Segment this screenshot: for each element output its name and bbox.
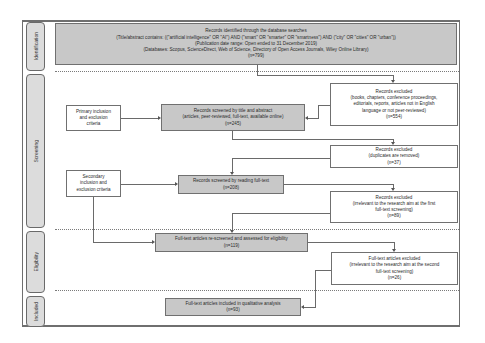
connector-line [318, 105, 330, 106]
connector-line [232, 213, 330, 214]
arrow-right-icon [175, 182, 178, 186]
box-line: (n=554) [386, 114, 402, 120]
stage-tab-included: Included [26, 296, 45, 327]
box-line: (n=245) [225, 121, 241, 127]
primary-criteria-box: Primary inclusion and exclusion criteria [66, 105, 121, 131]
arrow-down-icon [230, 230, 234, 233]
stage-label: Eligibility [33, 252, 39, 271]
connector-line [308, 242, 394, 243]
rescreened-eligibility-box: Full-text articles re-screened and asses… [155, 233, 308, 252]
box-line: exclusion criteria [76, 187, 110, 193]
connector-line [232, 213, 233, 230]
box-line: (n=37) [387, 160, 400, 166]
box-line: (n=208) [223, 185, 239, 191]
screened-full-text-box: Records screened by reading full-text (n… [178, 175, 284, 194]
articles-excluded-box-26: Full-text articles excluded (irrelevant … [331, 252, 458, 285]
connector-line [232, 158, 330, 159]
screened-title-abstract-box: Records screened by title and abstract (… [161, 104, 305, 131]
stage-divider [55, 290, 459, 291]
connector-line [318, 105, 319, 118]
arrow-down-icon [230, 172, 234, 175]
arrow-down-icon [391, 188, 395, 191]
arrow-down-icon [391, 142, 395, 145]
connector-line [257, 75, 393, 76]
connector-line [232, 158, 233, 172]
stage-tab-screening: Screening [26, 74, 45, 228]
connector-line [304, 307, 316, 308]
stage-label: Identification [33, 32, 39, 60]
stage-label: Included [33, 302, 39, 321]
box-line: (n=89) [387, 213, 400, 219]
connector-line [121, 118, 158, 119]
connector-line [394, 242, 395, 249]
included-qualitative-box: Full-text articles included in qualitati… [165, 298, 301, 316]
box-line: (n=93) [226, 307, 239, 313]
arrow-right-icon [152, 240, 155, 244]
connector-line [232, 131, 233, 139]
box-line: (n=119) [224, 243, 240, 249]
connector-line [93, 242, 152, 243]
box-line: criteria [87, 121, 101, 127]
box-line: (n=799) [248, 53, 264, 59]
connector-line [257, 65, 258, 75]
secondary-criteria-box: Secondary inclusion and exclusion criter… [66, 170, 121, 197]
records-excluded-box-37: Records excluded (duplicates are removed… [330, 145, 458, 168]
records-excluded-box-89: Records excluded (irrelevant to the rese… [330, 191, 458, 223]
stage-tab-eligibility: Eligibility [26, 231, 45, 293]
connector-line [315, 270, 331, 271]
stage-divider [55, 229, 459, 230]
connector-line [121, 184, 175, 185]
arrow-left-icon [301, 305, 304, 309]
records-excluded-box-554: Records excluded (books, chapters, confe… [330, 83, 458, 126]
connector-line [232, 139, 393, 140]
connector-line [284, 184, 393, 185]
connector-line [93, 197, 94, 242]
arrow-left-icon [305, 116, 308, 120]
stage-label: Screening [33, 140, 39, 163]
arrow-right-icon [158, 116, 161, 120]
box-line: (n=26) [388, 275, 401, 281]
arrow-down-icon [392, 249, 396, 252]
records-identified-box: Records identified through the database … [55, 23, 457, 65]
connector-line [315, 270, 316, 307]
connector-line [308, 118, 319, 119]
stage-tab-identification: Identification [26, 22, 45, 71]
arrow-down-icon [391, 80, 395, 83]
